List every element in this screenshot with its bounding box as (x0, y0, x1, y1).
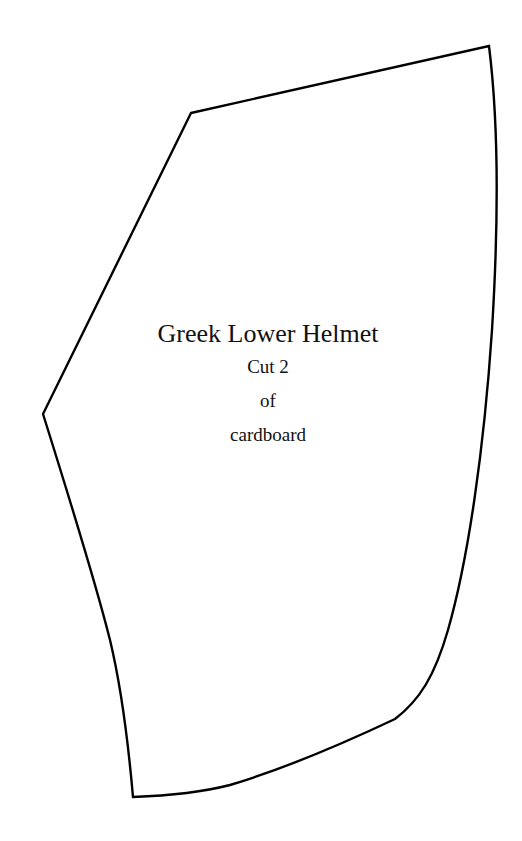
pattern-title: Greek Lower Helmet (0, 318, 522, 350)
instruction-line-1: Cut 2 (0, 350, 522, 384)
instruction-line-2: of (0, 384, 522, 418)
instruction-line-3: cardboard (0, 418, 522, 452)
pattern-label: Greek Lower Helmet Cut 2 of cardboard (0, 318, 522, 452)
